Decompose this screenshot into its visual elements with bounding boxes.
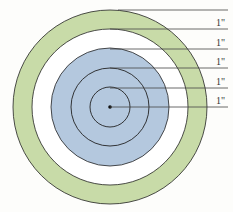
label-ring-5: 1" [216,17,225,28]
label-ring-4: 1" [216,37,225,48]
concentric-circle-diagram: 1" 1" 1" 1" 1" [0,0,233,212]
label-ring-1: 1" [216,95,225,106]
label-ring-2: 1" [216,76,225,87]
label-ring-3: 1" [216,56,225,67]
